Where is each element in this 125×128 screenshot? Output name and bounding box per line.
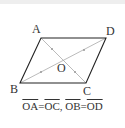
tick-od bbox=[83, 49, 85, 51]
equality-caption: OA=OC, OB=OD bbox=[0, 100, 125, 112]
vertex-label-b: B bbox=[10, 82, 18, 96]
segment-oa: OA bbox=[22, 100, 38, 112]
vertex-label-a: A bbox=[32, 22, 41, 36]
center-label-o: O bbox=[57, 61, 66, 75]
segment-od: OD bbox=[87, 100, 103, 112]
tick-ob bbox=[40, 71, 42, 73]
segment-oc: OC bbox=[44, 100, 59, 112]
segment-ob: OB bbox=[65, 100, 80, 112]
vertex-label-d: D bbox=[106, 24, 115, 38]
tick-oc bbox=[74, 71, 76, 73]
vertex-label-c: C bbox=[83, 84, 91, 98]
tick-oa bbox=[51, 48, 53, 50]
